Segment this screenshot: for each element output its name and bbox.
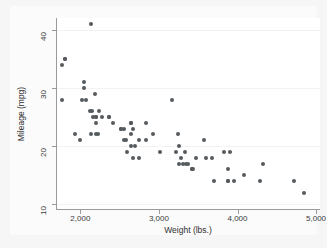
gridline-horizontal (56, 146, 320, 147)
data-point (131, 127, 135, 131)
data-point (158, 150, 162, 154)
gridline-horizontal (56, 88, 320, 89)
data-point (179, 156, 183, 160)
y-axis-title-label: Mileage (mpg) (16, 86, 26, 140)
data-point (202, 138, 206, 142)
y-tick-label-text: 30 (39, 90, 48, 99)
data-point (94, 121, 98, 125)
scatter-plot-figure: 10203040 2,0003,0004,0005,000 Mileage (m… (0, 0, 327, 248)
data-point (78, 138, 82, 142)
data-point (89, 22, 93, 26)
data-point (183, 150, 187, 154)
data-point (88, 109, 92, 113)
graph-region: 10203040 2,0003,0004,0005,000 Mileage (m… (10, 6, 317, 235)
data-point (131, 156, 135, 160)
data-point (194, 156, 198, 160)
x-tick-label: 4,000 (227, 214, 247, 223)
y-tick-mark (52, 30, 56, 31)
data-point (144, 138, 148, 142)
data-point (177, 144, 181, 148)
data-point (60, 98, 64, 102)
data-point (80, 98, 84, 102)
data-point (186, 162, 190, 166)
y-tick-label-text: 20 (39, 148, 48, 157)
data-point (210, 156, 214, 160)
data-point (84, 98, 88, 102)
x-tick-label: 2,000 (70, 214, 90, 223)
y-axis-title: Mileage (mpg) (14, 6, 28, 221)
data-point (204, 156, 208, 160)
y-tick-mark (52, 204, 56, 205)
data-point (212, 179, 216, 183)
x-axis-title: Weight (lbs.) (56, 225, 320, 235)
data-point (242, 173, 246, 177)
data-point (232, 179, 236, 183)
data-point (181, 162, 185, 166)
data-point (91, 115, 95, 119)
data-point (228, 150, 232, 154)
y-tick-mark (52, 88, 56, 89)
data-point (63, 57, 67, 61)
x-tick-label: 3,000 (149, 214, 169, 223)
y-tick-label-text: 40 (39, 32, 48, 41)
data-point (60, 63, 64, 67)
plot-area (56, 18, 320, 209)
data-point (119, 127, 123, 131)
data-point (144, 121, 148, 125)
data-point (125, 150, 129, 154)
y-axis-line (56, 18, 57, 209)
gridline-horizontal (56, 204, 320, 205)
data-point (93, 92, 97, 96)
x-axis-line (56, 209, 320, 210)
gridline-horizontal (56, 30, 320, 31)
data-point (170, 98, 174, 102)
data-point (129, 121, 133, 125)
x-axis-title-label: Weight (lbs.) (164, 225, 212, 235)
data-point (111, 121, 115, 125)
data-point (82, 80, 86, 84)
y-tick-mark (52, 146, 56, 147)
y-tick-label-text: 10 (39, 206, 48, 215)
data-point (302, 191, 306, 195)
x-tick-label: 5,000 (306, 214, 326, 223)
